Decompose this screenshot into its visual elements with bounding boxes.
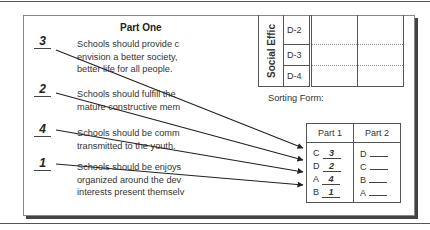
connector-arrows <box>0 0 430 230</box>
arrow-1-to-B <box>56 164 303 185</box>
arrow-4-to-A <box>56 130 303 172</box>
arrow-3-to-C <box>56 50 303 148</box>
bottom-rule <box>0 223 430 224</box>
arrow-2-to-D <box>56 93 303 160</box>
